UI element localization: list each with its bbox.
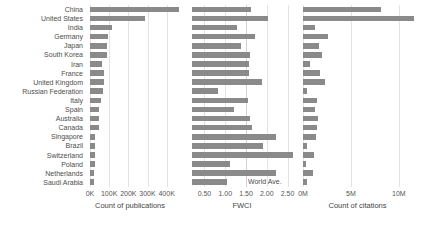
- bar[interactable]: [192, 161, 230, 167]
- bar[interactable]: [303, 79, 325, 85]
- bar-row: [90, 96, 182, 105]
- bar[interactable]: [192, 79, 262, 85]
- bar[interactable]: [192, 134, 276, 140]
- bar[interactable]: [303, 34, 328, 40]
- bar[interactable]: [90, 16, 145, 22]
- x-axis-tick-label: 2.50: [281, 190, 295, 197]
- bar[interactable]: [303, 134, 316, 140]
- bar[interactable]: [303, 88, 307, 94]
- bar-row: [90, 50, 182, 59]
- bar[interactable]: [192, 16, 268, 22]
- bar-row: [90, 132, 182, 141]
- bar[interactable]: [90, 125, 99, 131]
- bar[interactable]: [90, 7, 179, 13]
- bar[interactable]: [303, 107, 315, 113]
- bar[interactable]: [303, 116, 318, 122]
- category-label: Australia: [0, 114, 86, 123]
- bar[interactable]: [303, 125, 317, 131]
- bar[interactable]: [303, 152, 314, 158]
- bar[interactable]: [90, 107, 99, 113]
- bar[interactable]: [90, 34, 108, 40]
- category-label: Canada: [0, 123, 86, 132]
- bar[interactable]: [192, 179, 227, 185]
- bar-row: [90, 114, 182, 123]
- bar[interactable]: [192, 7, 251, 13]
- bar[interactable]: [192, 152, 293, 158]
- bar[interactable]: [303, 161, 306, 167]
- bar[interactable]: [90, 52, 107, 58]
- x-axis-tick-label: 200K: [120, 190, 136, 197]
- bar[interactable]: [303, 143, 307, 149]
- bar-row: [303, 50, 420, 59]
- bar[interactable]: [90, 134, 95, 140]
- bar[interactable]: [90, 25, 112, 31]
- bar[interactable]: [303, 52, 322, 58]
- bar-row: [90, 60, 182, 69]
- bar-row: [303, 160, 420, 169]
- bar-row: [303, 14, 420, 23]
- bar-row: [90, 23, 182, 32]
- category-label: Germany: [0, 32, 86, 41]
- category-label: Russian Federation: [0, 87, 86, 96]
- x-axis-title: Count of citations: [329, 201, 387, 210]
- bar[interactable]: [303, 43, 319, 49]
- bar[interactable]: [90, 161, 95, 167]
- bar-row: [90, 169, 182, 178]
- bar-series: [90, 5, 182, 187]
- bar[interactable]: [192, 107, 234, 113]
- bar[interactable]: [192, 34, 255, 40]
- bar[interactable]: [90, 79, 104, 85]
- x-axis-tick-label: 2.00: [260, 190, 274, 197]
- bar[interactable]: [90, 61, 102, 67]
- bar-row: [192, 114, 300, 123]
- category-label: China: [0, 5, 86, 14]
- bar[interactable]: [192, 70, 249, 76]
- bar[interactable]: [90, 43, 107, 49]
- x-axis-title: Count of publications: [95, 201, 165, 210]
- bar[interactable]: [192, 143, 263, 149]
- bar[interactable]: [90, 98, 101, 104]
- bar[interactable]: [192, 52, 250, 58]
- bar[interactable]: [303, 70, 320, 76]
- bar[interactable]: [192, 125, 252, 131]
- bar[interactable]: [90, 70, 104, 76]
- bar[interactable]: [192, 88, 218, 94]
- bar[interactable]: [90, 116, 99, 122]
- bar[interactable]: [192, 43, 241, 49]
- bar[interactable]: [192, 116, 250, 122]
- bar-row: [90, 69, 182, 78]
- bar-row: [303, 114, 420, 123]
- bar[interactable]: [303, 61, 310, 67]
- bar-series: [192, 5, 300, 187]
- bar[interactable]: [303, 7, 381, 13]
- bar-row: [303, 69, 420, 78]
- x-axis-tick-label: 400K: [158, 190, 174, 197]
- bar-row: [192, 87, 300, 96]
- bar[interactable]: [90, 170, 94, 176]
- bar[interactable]: [90, 143, 95, 149]
- bar-row: [192, 160, 300, 169]
- bar[interactable]: [90, 152, 95, 158]
- bar[interactable]: [192, 98, 248, 104]
- bar-row: [90, 87, 182, 96]
- category-label: South Korea: [0, 50, 86, 59]
- bar[interactable]: [192, 61, 249, 67]
- category-label: Switzerland: [0, 151, 86, 160]
- bar[interactable]: [303, 170, 313, 176]
- bar[interactable]: [192, 170, 276, 176]
- category-label: Brazil: [0, 141, 86, 150]
- bar[interactable]: [303, 98, 317, 104]
- bar[interactable]: [303, 16, 414, 22]
- bar[interactable]: [192, 25, 237, 31]
- bar-row: [303, 105, 420, 114]
- bar[interactable]: [90, 179, 94, 185]
- bar[interactable]: [90, 88, 103, 94]
- bar-row: [90, 141, 182, 150]
- bar-row: [192, 50, 300, 59]
- bar[interactable]: [303, 179, 307, 185]
- x-axis-title: FWCI: [232, 201, 251, 210]
- bar[interactable]: [303, 25, 315, 31]
- bar-row: [192, 178, 300, 187]
- x-axis-tick-label: 1.50: [239, 190, 253, 197]
- bar-row: [192, 105, 300, 114]
